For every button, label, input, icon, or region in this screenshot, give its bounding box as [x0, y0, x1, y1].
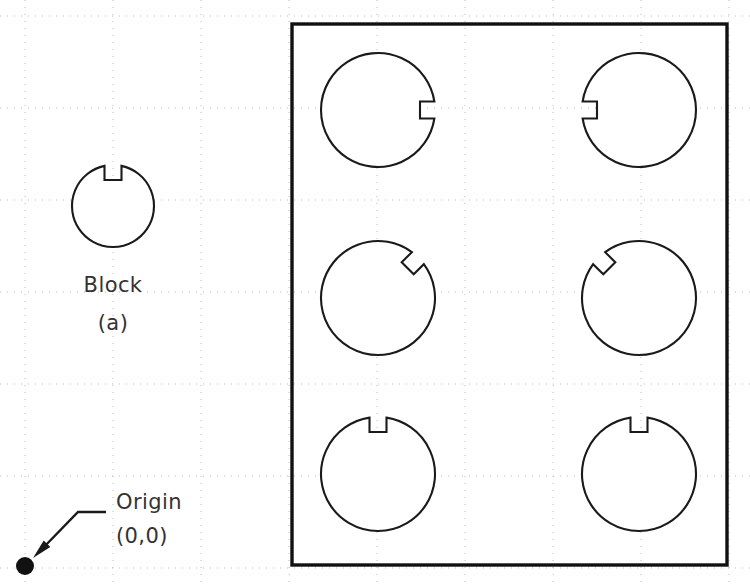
- origin-leader-line: [42, 512, 106, 549]
- drawing-canvas: Block (a) Origin (0,0): [0, 0, 750, 588]
- origin-annotation-layer: Origin (0,0): [16, 490, 182, 575]
- keyed-part-west-r1c2: [583, 53, 696, 167]
- origin-coords-label: (0,0): [116, 524, 168, 548]
- block-sample-outline: [72, 166, 154, 247]
- keyed-part-north-r3c2: [582, 418, 696, 531]
- keyed-part-east-r1c1: [321, 53, 434, 167]
- origin-name-label: Origin: [116, 490, 182, 514]
- block-sub-caption-label: (a): [98, 311, 128, 335]
- keyed-part-north-r3c1: [321, 418, 435, 531]
- block-caption-label: Block: [84, 273, 143, 297]
- origin-point-dot: [16, 557, 34, 575]
- block-sample-layer: Block (a): [72, 166, 154, 335]
- keyed-part-northwest-r2c2: [582, 241, 696, 355]
- technical-drawing-svg: Block (a) Origin (0,0): [0, 0, 750, 588]
- keyed-part-northeast-r2c1: [321, 241, 435, 355]
- keyed-parts-layer: [321, 53, 696, 531]
